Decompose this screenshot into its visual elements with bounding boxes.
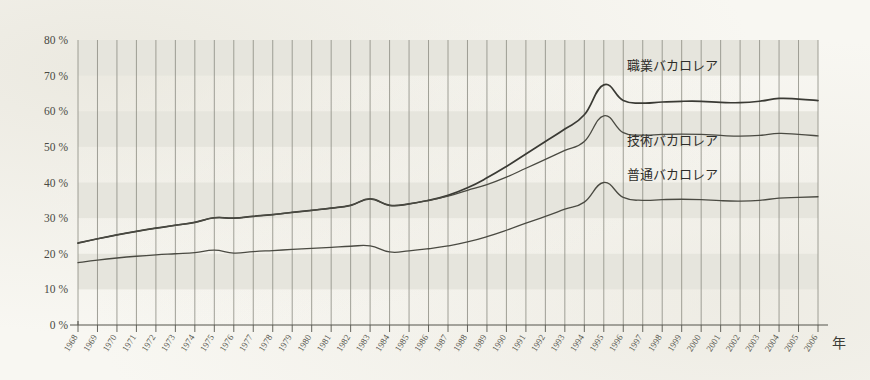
x-axis-tick-label: 1991 (510, 333, 528, 354)
x-axis-tick-label: 2003 (743, 332, 761, 353)
x-axis-tick-labels: 1968196919701971197219731974197519761977… (62, 325, 820, 353)
x-axis-tick-label: 1987 (432, 332, 450, 353)
series-label-general: 普通バカロレア (627, 167, 718, 182)
x-axis-tick-label: 1992 (529, 333, 547, 354)
x-axis-tick-label: 1973 (159, 332, 177, 353)
x-axis-tick-label: 1975 (198, 332, 216, 353)
x-axis-tick-label: 1997 (626, 332, 644, 353)
series-label-technical: 技術バカロレア (627, 133, 718, 148)
x-axis-tick-label: 1976 (217, 332, 235, 353)
x-axis-tick-label: 1985 (393, 332, 411, 353)
line-chart: 0 %10 %20 %30 %40 %50 %60 %70 %80 % 1968… (0, 0, 870, 380)
y-axis-tick-label: 40 % (44, 177, 68, 189)
x-axis-tick-label: 1984 (373, 332, 391, 353)
x-axis-tick-label: 2006 (802, 332, 820, 353)
y-axis-tick-label: 0 % (50, 319, 69, 331)
y-axis-tick-labels: 0 %10 %20 %30 %40 %50 %60 %70 %80 % (44, 34, 68, 331)
x-axis-tick-label: 1969 (81, 332, 99, 353)
x-axis-tick-label: 1972 (140, 333, 158, 354)
x-axis-tick-label: 1988 (451, 332, 469, 353)
x-axis-tick-label: 1990 (490, 332, 508, 353)
x-axis-tick-label: 1981 (315, 333, 333, 354)
x-axis-tick-label: 2002 (724, 333, 742, 354)
x-axis-tick-label: 1983 (354, 332, 372, 353)
x-axis-tick-label: 1977 (237, 332, 255, 353)
x-axis-tick-label: 2004 (763, 332, 781, 353)
x-axis-tick-label: 1995 (587, 332, 605, 353)
x-axis-tick-label: 1978 (256, 332, 274, 353)
x-axis-tick-label: 1989 (471, 332, 489, 353)
x-axis-tick-label: 1968 (62, 332, 80, 353)
x-axis-tick-label: 1998 (646, 332, 664, 353)
chart-svg: 0 %10 %20 %30 %40 %50 %60 %70 %80 % 1968… (0, 0, 870, 380)
x-axis-tick-label: 1999 (665, 332, 683, 353)
x-axis-unit-label: 年 (832, 335, 846, 351)
y-axis-tick-label: 80 % (44, 34, 68, 46)
x-axis-tick-label: 2000 (685, 332, 703, 353)
x-axis-tick-label: 1994 (568, 332, 586, 353)
axis-lines (70, 321, 828, 325)
x-axis-tick-label: 1971 (120, 333, 138, 354)
x-axis-tick-label: 1993 (549, 332, 567, 353)
x-axis-tick-label: 2005 (782, 332, 800, 353)
series-label-professional: 職業バカロレア (627, 58, 718, 73)
y-axis-tick-label: 20 % (44, 248, 68, 260)
y-axis-tick-label: 70 % (44, 70, 68, 82)
y-axis-tick-label: 30 % (44, 212, 68, 224)
y-axis-tick-label: 10 % (44, 283, 68, 295)
y-axis-tick-label: 50 % (44, 141, 68, 153)
x-axis-tick-label: 1979 (276, 332, 294, 353)
x-axis-tick-label: 2001 (704, 333, 722, 354)
chart-page: 0 %10 %20 %30 %40 %50 %60 %70 %80 % 1968… (0, 0, 870, 380)
x-axis-tick-label: 1982 (334, 333, 352, 354)
x-axis-tick-label: 1986 (412, 332, 430, 353)
x-axis-tick-label: 1974 (179, 332, 197, 353)
x-axis-tick-label: 1980 (295, 332, 313, 353)
x-axis-tick-label: 1970 (101, 332, 119, 353)
y-axis-tick-label: 60 % (44, 105, 68, 117)
x-axis-tick-label: 1996 (607, 332, 625, 353)
